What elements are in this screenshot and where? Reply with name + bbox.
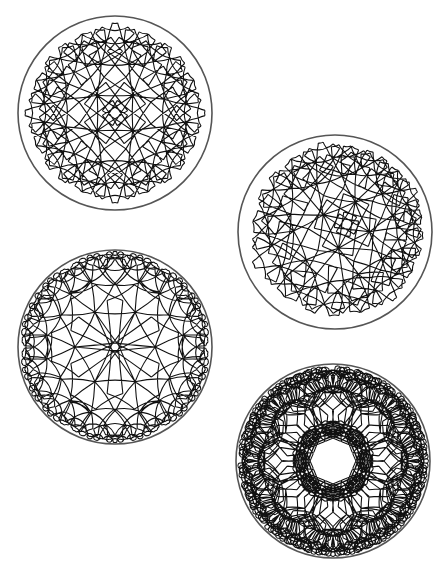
tiling-svg (233, 361, 433, 561)
poincare-disk-4 (233, 361, 433, 561)
disk-boundary-circle (18, 250, 212, 444)
geodesic-edges (252, 142, 423, 316)
tiling-svg (15, 13, 215, 213)
poincare-disk-3 (15, 247, 215, 447)
geodesic-edges (25, 23, 205, 203)
disk-boundary-circle (18, 16, 212, 210)
poincare-disk-2 (235, 132, 435, 332)
tiling-svg (15, 247, 215, 447)
geodesic-edges (22, 251, 209, 443)
geodesic-edges (238, 366, 429, 557)
poincare-disk-1 (15, 13, 215, 213)
tiling-svg (235, 132, 435, 332)
